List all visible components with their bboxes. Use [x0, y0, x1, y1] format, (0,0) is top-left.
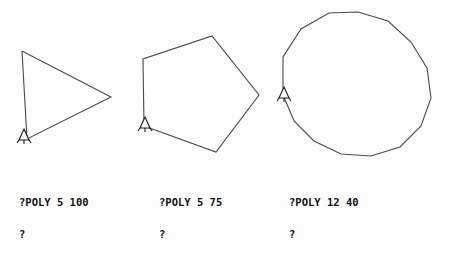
triangle-outline: [22, 51, 111, 139]
pentagon-outline: [143, 36, 259, 152]
prompt-line[interactable]: ?: [159, 229, 222, 240]
prompt-line[interactable]: ?: [289, 229, 359, 240]
shape-pentagon: [138, 36, 259, 152]
command-line-3[interactable]: ?POLY 12 40: [289, 197, 359, 208]
turtle-cursor-triangle: [17, 129, 31, 144]
console-column-2: ?POLY 5 75 ? ? ? ? ? ?: [159, 176, 222, 259]
shape-dodecagon: [277, 12, 431, 156]
command-line-1[interactable]: ?POLY 5 100: [19, 197, 89, 208]
command-line-2[interactable]: ?POLY 5 75: [159, 197, 222, 208]
turtle-cursor-pentagon: [138, 117, 152, 132]
console-column-1: ?POLY 5 100 ? ? ? ? ? ?: [19, 176, 89, 259]
shape-triangle: [17, 51, 111, 144]
prompt-line[interactable]: ?: [19, 229, 89, 240]
console-column-3: ?POLY 12 40 ? ? ? ? ? ?: [289, 176, 359, 259]
dodecagon-outline: [283, 12, 431, 156]
logo-screen: ?POLY 5 100 ? ? ? ? ? ? ?POLY 5 75 ? ? ?…: [0, 0, 450, 259]
command-console: ?POLY 5 100 ? ? ? ? ? ? ?POLY 5 75 ? ? ?…: [0, 176, 450, 259]
turtle-cursor-dodecagon: [277, 87, 291, 102]
